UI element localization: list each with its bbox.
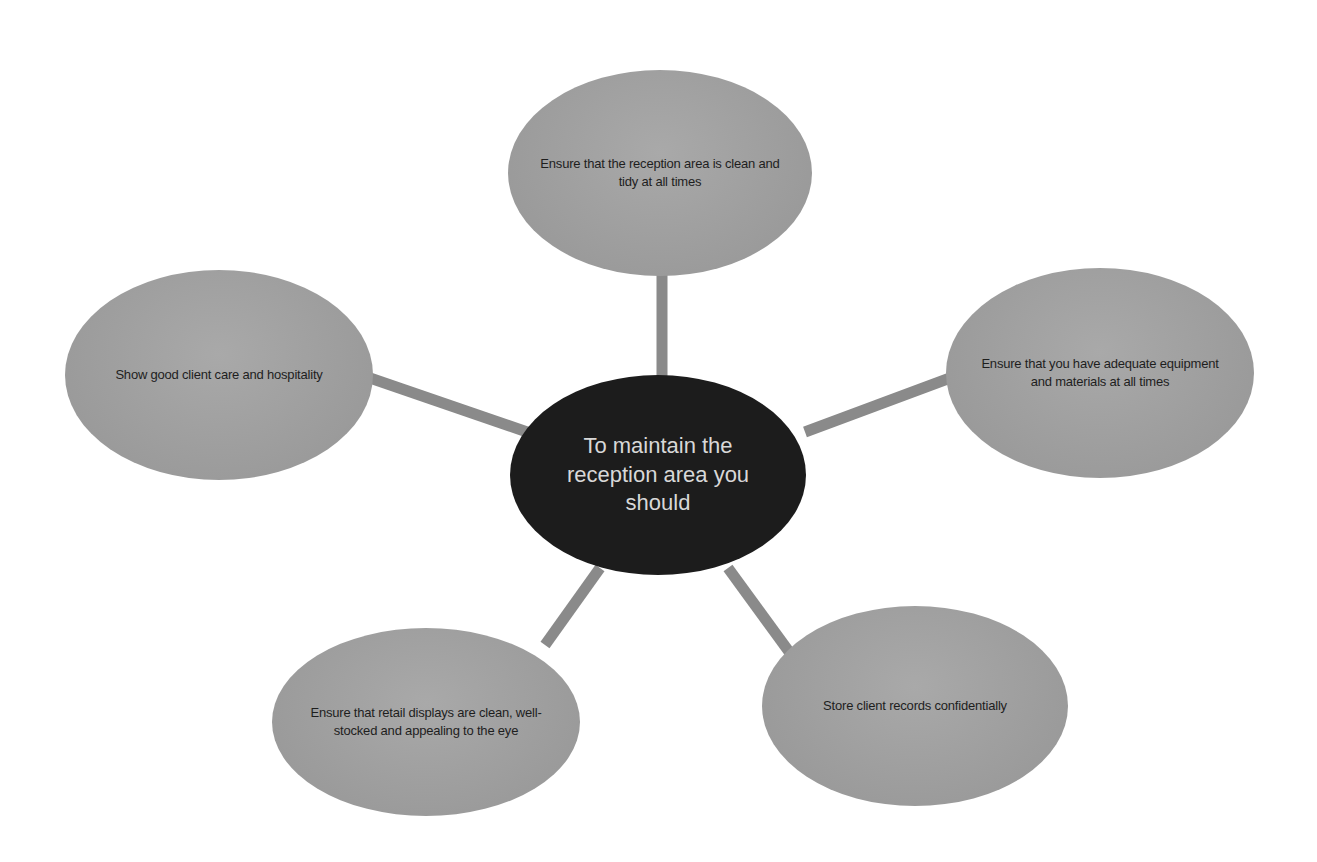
node-label: Ensure that you have adequate equipment … — [974, 355, 1226, 390]
node-label: Store client records confidentially — [823, 697, 1007, 715]
hub-node: To maintain the reception area you shoul… — [510, 375, 806, 575]
connector-bottom-left — [545, 568, 600, 645]
node-label: Ensure that the reception area is clean … — [536, 155, 784, 190]
node-bottom-right: Store client records confidentially — [762, 606, 1068, 806]
connector-left — [370, 378, 530, 433]
node-top: Ensure that the reception area is clean … — [508, 70, 812, 276]
hub-label: To maintain the reception area you shoul… — [546, 432, 770, 518]
node-bottom-left: Ensure that retail displays are clean, w… — [272, 628, 580, 816]
node-left: Show good client care and hospitality — [65, 270, 373, 480]
connector-right — [805, 378, 950, 432]
spider-diagram: Ensure that the reception area is clean … — [0, 0, 1317, 862]
connector-bottom-right — [728, 568, 790, 653]
node-right: Ensure that you have adequate equipment … — [946, 268, 1254, 478]
node-label: Show good client care and hospitality — [115, 366, 322, 384]
node-label: Ensure that retail displays are clean, w… — [300, 704, 552, 739]
